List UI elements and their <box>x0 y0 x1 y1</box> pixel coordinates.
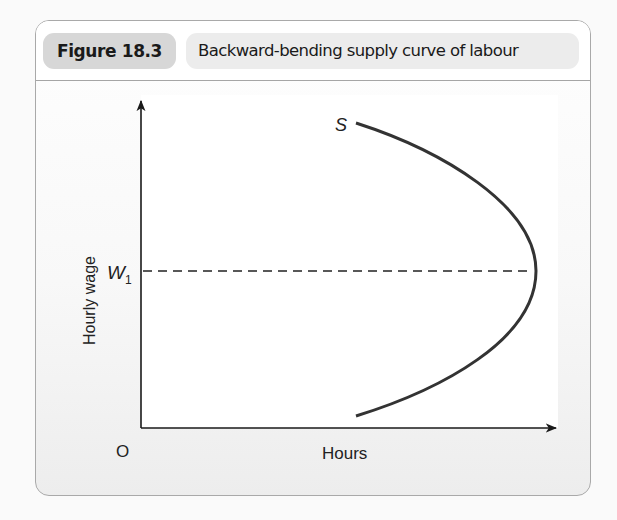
chart-plot: S W1 Hourly wage O Hours <box>0 0 617 520</box>
y-axis-label: Hourly wage <box>81 256 98 345</box>
w1-label: W1 <box>107 262 132 287</box>
plot-area <box>141 95 558 428</box>
x-axis-label: Hours <box>322 444 367 463</box>
origin-label: O <box>116 442 129 461</box>
curve-label-s: S <box>335 115 347 135</box>
